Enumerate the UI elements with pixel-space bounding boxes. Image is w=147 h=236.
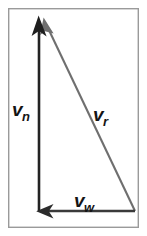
label-vw: vw — [74, 191, 94, 210]
label-vw-base: v — [74, 190, 84, 211]
vector-vn — [32, 16, 47, 212]
label-vn: vn — [12, 100, 30, 119]
label-vr-base: v — [93, 104, 103, 125]
vector-vr — [40, 18, 135, 212]
label-vn-base: v — [12, 99, 22, 120]
label-vn-subscript: n — [22, 109, 30, 124]
label-vw-subscript: w — [84, 200, 94, 215]
vector-vr-shaft — [48, 27, 136, 211]
vector-diagram: vn vr vw — [0, 0, 147, 236]
label-vr-subscript: r — [103, 114, 108, 129]
label-vr: vr — [93, 105, 108, 124]
